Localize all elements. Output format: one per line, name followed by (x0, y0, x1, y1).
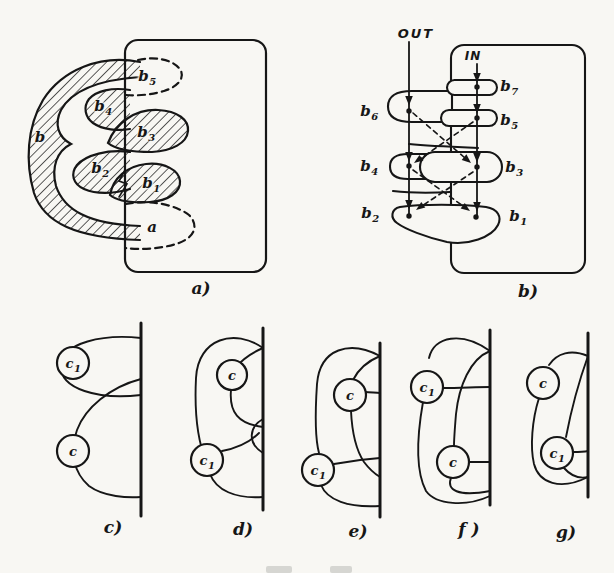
panel-c-drawing (57, 323, 141, 516)
label-b-b6: b6 (360, 102, 377, 120)
label-d-c1: c1 (200, 453, 215, 468)
panel-e-strand-c-right (365, 392, 380, 393)
label-a-b5: b5 (138, 67, 155, 85)
label-e-c: c (346, 388, 354, 403)
panel-f-strand-top-to-c (454, 351, 490, 446)
loop-b7 (447, 80, 497, 95)
caption-c: c) (104, 517, 122, 537)
panel-e-strand-c1-bottom (321, 485, 380, 506)
label-g-c: c (539, 376, 547, 391)
label-f-c: c (449, 455, 457, 470)
panel-g-strand-c1-right (573, 451, 588, 452)
label-in: IN (465, 49, 482, 63)
label-f-c1: c1 (420, 380, 435, 395)
label-a-b3: b3 (137, 123, 154, 141)
panel-e-drawing (302, 343, 380, 517)
label-b-b7: b7 (500, 77, 517, 95)
panel-f-outer-top (429, 338, 490, 358)
caption-a: a) (191, 278, 210, 298)
label-b-b5: b5 (500, 111, 517, 129)
label-out: OUT (398, 26, 434, 41)
panel-g-strand-top-to-c1 (566, 356, 588, 437)
panel-d-drawing (191, 328, 263, 510)
label-b-b1: b1 (509, 207, 526, 225)
label-a-b2: b2 (91, 159, 108, 177)
caption-d: d) (233, 519, 253, 539)
panel-e-strand-c1-right (334, 458, 380, 464)
caption-e: e) (349, 521, 368, 541)
panel-e-strand-to-c (353, 356, 380, 380)
label-a-a: a (147, 218, 157, 236)
label-b-b4: b4 (360, 157, 377, 175)
loop-b3 (420, 152, 502, 182)
caption-f: f ) (458, 519, 479, 539)
panel-b-drawing (388, 42, 585, 273)
cropped-caption-smudge (266, 566, 352, 573)
label-b-b2: b2 (361, 204, 378, 222)
panel-e-strand-c-down (351, 411, 380, 477)
label-a-b4: b4 (94, 97, 111, 115)
panel-f-strand-c1-right (443, 387, 490, 388)
caption-b: b) (518, 281, 538, 301)
caption-g: g) (556, 522, 576, 542)
label-a-b: b (35, 128, 46, 146)
figure-canvas: b b5 b4 b3 b2 b1 a OUT IN b7 b6 b5 b4 b3… (0, 0, 614, 573)
label-b-b3: b3 (505, 158, 522, 176)
panel-f-drawing (411, 330, 490, 505)
panel-g-strand-c1-bottom (564, 468, 588, 478)
label-g-c1: c1 (550, 446, 565, 461)
label-e-c1: c1 (311, 463, 326, 478)
loop-b5 (441, 110, 497, 126)
panel-g-strand-top-to-c (549, 353, 588, 365)
label-c-c: c (69, 444, 77, 459)
panel-d-bottom-band (210, 474, 263, 497)
panel-g-drawing (527, 333, 588, 497)
panel-f-strand-c-bottom (450, 478, 490, 493)
label-c-c1: c1 (66, 356, 81, 371)
panel-d-lens-arc (252, 419, 263, 453)
label-a-b1: b1 (142, 174, 159, 192)
label-d-c: c (228, 368, 236, 383)
